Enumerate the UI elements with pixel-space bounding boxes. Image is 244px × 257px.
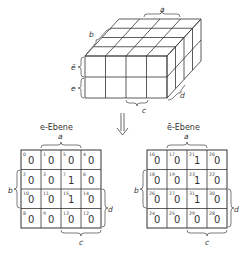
kmap-cells: 16 0 17 0 21 1 20 0 18 0 19 0 23 1 22 0 …: [149, 152, 220, 225]
cell-value: 0: [154, 155, 160, 166]
kmap-label-d: d: [234, 205, 239, 214]
cube-label-a: a: [160, 5, 165, 14]
cell-value: 0: [68, 214, 74, 225]
kmap-label-b: b: [134, 186, 139, 195]
cell-value: 0: [28, 175, 34, 186]
cell-value: 0: [48, 175, 54, 186]
cell-index: 3: [43, 172, 46, 177]
cell-index: 9: [43, 211, 46, 216]
kmap-label-a: a: [184, 132, 189, 141]
kmap-label-d: d: [108, 205, 113, 214]
cell-value: 0: [28, 155, 34, 166]
kmap-e-bar-ebene: ē-Ebene a b d c 16 0 17 0 21 1 2: [134, 123, 239, 247]
kmap-label-c: c: [79, 238, 84, 247]
cell-value: 0: [174, 194, 180, 205]
cell-index: 1: [43, 152, 46, 157]
cell-value: 0: [88, 194, 94, 205]
cell-index: 4: [83, 152, 86, 157]
kmap-title: ē-Ebene: [167, 123, 200, 132]
cell-value: 0: [154, 214, 160, 225]
cell-value: 0: [88, 155, 94, 166]
cell-value: 0: [88, 175, 94, 186]
cell-value: 1: [68, 175, 74, 186]
cell-value: 0: [48, 155, 54, 166]
cell-value: 1: [194, 194, 200, 205]
cell-value: 0: [194, 214, 200, 225]
cell-value: 0: [154, 175, 160, 186]
cube-label-c: c: [142, 106, 147, 115]
cell-value: 0: [68, 155, 74, 166]
cell-value: 0: [214, 175, 220, 186]
cell-index: 2: [23, 172, 26, 177]
kmap-title: e-Ebene: [40, 123, 73, 132]
cell-value: 0: [214, 155, 220, 166]
cell-value: 0: [88, 214, 94, 225]
cell-value: 0: [154, 194, 160, 205]
kmap-label-c: c: [205, 238, 210, 247]
kmap-cells: 0 0 1 0 5 0 4 0 2 0 3 0 7 1 6 0 10 0 11 …: [23, 152, 94, 225]
kmap-e-ebene: e-Ebene a b d c 0 0 1 0 5 0: [8, 123, 113, 247]
cube-label-e-bar: ē: [71, 63, 76, 72]
cell-index: 7: [63, 172, 66, 177]
cell-value: 0: [28, 194, 34, 205]
cube-label-e: e: [71, 84, 76, 93]
kmap-label-a: a: [58, 132, 63, 141]
cell-value: 0: [48, 194, 54, 205]
cell-value: 0: [174, 214, 180, 225]
cell-value: 0: [174, 175, 180, 186]
cell-value: 0: [174, 155, 180, 166]
karnaugh-cube-diagram: a b ē e c d e-Ebene a b d c: [0, 0, 244, 257]
cell-index: 8: [23, 211, 26, 216]
double-arrow-down-icon: [117, 113, 128, 135]
cube-label-d: d: [180, 91, 185, 100]
cube-label-b: b: [89, 30, 94, 39]
cell-value: 0: [48, 214, 54, 225]
cell-value: 0: [214, 194, 220, 205]
cell-value: 1: [194, 155, 200, 166]
cell-value: 1: [68, 194, 74, 205]
cell-value: 0: [28, 214, 34, 225]
cell-index: 0: [23, 152, 26, 157]
cube: [85, 19, 201, 98]
kmap-label-b: b: [8, 186, 13, 195]
cell-value: 0: [214, 214, 220, 225]
cell-index: 6: [83, 172, 86, 177]
cell-index: 5: [63, 152, 66, 157]
cell-value: 1: [194, 175, 200, 186]
cube-braces: [78, 11, 185, 106]
